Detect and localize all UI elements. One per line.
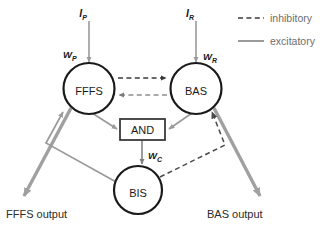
- legend-label-inhibitory: inhibitory: [270, 12, 313, 24]
- node-bis-label: BIS: [129, 187, 147, 199]
- legend-label-excitatory: excitatory: [270, 35, 316, 47]
- output-label-ffs: FFFS output: [6, 208, 67, 220]
- weight-label-wp: WP: [63, 49, 77, 62]
- input-label-ip: IP: [79, 7, 87, 21]
- excitatory-ffs-to-and: [92, 113, 117, 129]
- output-label-bas: BAS output: [207, 208, 263, 220]
- node-bas-label: BAS: [185, 85, 207, 97]
- diagram-canvas: FFFS BAS BIS AND IP IR WP WR WC FFFS out…: [0, 0, 324, 231]
- network-diagram: FFFS BAS BIS AND IP IR WP WR WC FFFS out…: [0, 0, 324, 231]
- weight-label-wc: WC: [148, 150, 163, 163]
- excitatory-bas-to-and: [169, 113, 192, 129]
- node-ffs-label: FFFS: [75, 85, 103, 97]
- excitatory-bas-output-line: [214, 108, 260, 196]
- node-and-label: AND: [131, 124, 154, 136]
- input-label-ir: IR: [186, 7, 194, 21]
- inhibitory-bis-to-bas-path: [160, 112, 225, 177]
- weight-label-wr: WR: [203, 51, 217, 64]
- legend: inhibitory excitatory: [238, 12, 316, 47]
- legend-item-excitatory: excitatory: [238, 35, 316, 47]
- legend-item-inhibitory: inhibitory: [238, 12, 313, 24]
